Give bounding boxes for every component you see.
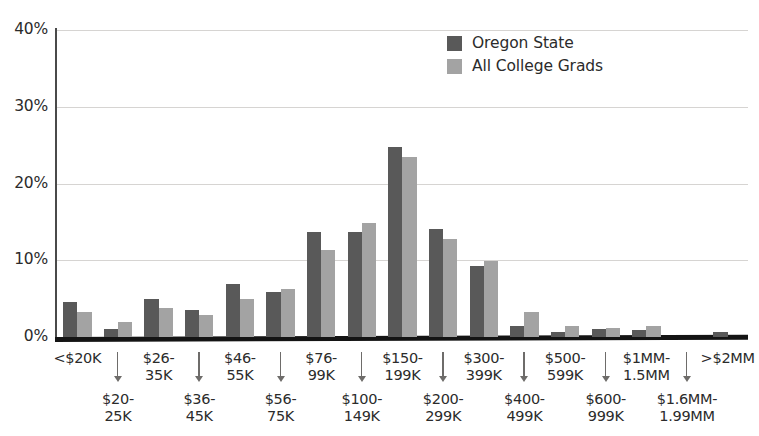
bar — [159, 308, 173, 337]
x-axis-label: $150- 199K — [366, 350, 440, 383]
x-axis-labels: <$20K$20- 25K$26- 35K$36- 45K$46- 55K$56… — [0, 344, 748, 436]
bar — [402, 157, 416, 337]
bar — [646, 326, 660, 337]
bar — [266, 292, 280, 337]
bar-group — [266, 30, 294, 337]
bar — [240, 299, 254, 337]
x-axis-label: $400- 499K — [487, 391, 561, 424]
bar — [185, 310, 199, 337]
x-axis-label: $36- 45K — [162, 391, 236, 424]
bar-group — [144, 30, 172, 337]
bar — [199, 315, 213, 337]
x-axis-label: <$20K — [40, 350, 114, 367]
bar-group — [307, 30, 335, 337]
bar — [443, 239, 457, 337]
bars-layer — [57, 30, 748, 337]
x-axis-label: $56- 75K — [244, 391, 318, 424]
bar — [484, 261, 498, 337]
bar — [429, 229, 443, 337]
y-axis-tick-label: 40% — [14, 22, 48, 38]
bar-group — [673, 30, 701, 337]
bar-group — [429, 30, 457, 337]
bar — [226, 284, 240, 337]
bar-group — [551, 30, 579, 337]
bar — [632, 330, 646, 337]
bar-group — [104, 30, 132, 337]
legend-item-label: All College Grads — [472, 59, 603, 75]
bar — [510, 326, 524, 338]
legend-swatch-icon — [447, 59, 462, 74]
bar — [362, 223, 376, 337]
x-axis-label: $100- 149K — [325, 391, 399, 424]
bar — [144, 299, 158, 337]
bar — [592, 329, 606, 337]
chart-legend: Oregon State All College Grads — [447, 36, 603, 74]
bar-group — [713, 30, 741, 337]
x-axis-label: $600- 999K — [569, 391, 643, 424]
bar — [321, 250, 335, 337]
bar — [713, 332, 727, 337]
x-axis-label: $76- 99K — [284, 350, 358, 383]
x-axis-label: $300- 399K — [447, 350, 521, 383]
x-axis-label: $20- 25K — [81, 391, 155, 424]
bar — [63, 302, 77, 337]
x-axis-label: >$2MM — [691, 350, 759, 367]
bar-group — [632, 30, 660, 337]
bar — [77, 312, 91, 337]
bar — [348, 232, 362, 337]
bar-group — [592, 30, 620, 337]
legend-item-oregon-state: Oregon State — [447, 36, 603, 52]
bar-group — [63, 30, 91, 337]
bar — [388, 147, 402, 337]
bar — [118, 322, 132, 337]
bar — [104, 329, 118, 337]
x-axis-label: $1.6MM- 1.99MM — [650, 391, 724, 424]
x-axis-label: $500- 599K — [528, 350, 602, 383]
bar — [565, 326, 579, 337]
bar-group — [470, 30, 498, 337]
bar — [524, 312, 538, 337]
x-axis-label: $26- 35K — [122, 350, 196, 383]
bar-group — [388, 30, 416, 337]
y-axis-tick-label: 10% — [14, 252, 48, 268]
bar — [551, 332, 565, 337]
y-axis-tick-label: 0% — [24, 329, 48, 345]
bar-group — [348, 30, 376, 337]
legend-swatch-icon — [447, 36, 462, 51]
bar — [307, 232, 321, 337]
bar-group — [226, 30, 254, 337]
x-axis-label: $1MM- 1.5MM — [609, 350, 683, 383]
y-axis-tick-label: 30% — [14, 99, 48, 115]
y-axis-tick-label: 20% — [14, 176, 48, 192]
x-axis-label: $46- 55K — [203, 350, 277, 383]
x-axis-label: $200- 299K — [406, 391, 480, 424]
bar — [606, 328, 620, 337]
legend-item-all-college-grads: All College Grads — [447, 59, 603, 75]
bar-group — [510, 30, 538, 337]
legend-item-label: Oregon State — [472, 36, 574, 52]
bar — [470, 266, 484, 337]
bar — [281, 289, 295, 337]
bar-group — [185, 30, 213, 337]
